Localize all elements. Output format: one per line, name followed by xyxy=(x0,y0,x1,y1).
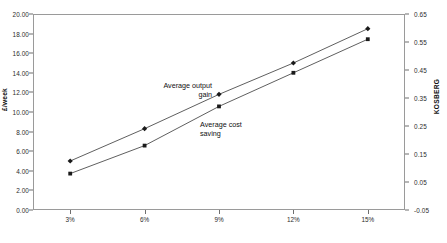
y-axis-right-tick-label: 0.65 xyxy=(414,11,427,18)
y-axis-right-tick-label: -0.05 xyxy=(414,207,429,214)
y-axis-left-tick-label: 12.00 xyxy=(13,89,30,96)
x-axis-tick-mark xyxy=(219,210,220,214)
y-axis-right-tick-label: 0.05 xyxy=(414,179,427,186)
y-axis-right-tick-mark xyxy=(405,126,409,127)
y-axis-left-tick-label: 8.00 xyxy=(16,128,29,135)
annotation-average-output-gain: Average output gain xyxy=(138,81,212,99)
y-axis-right-title: KOSBERG xyxy=(433,71,440,123)
y-axis-right-tick-mark xyxy=(405,154,409,155)
y-axis-right-tick-mark xyxy=(405,14,409,15)
x-axis-tick-mark xyxy=(368,210,369,214)
y-axis-right-tick-mark xyxy=(405,98,409,99)
x-axis-tick-label: 9% xyxy=(214,216,223,223)
y-axis-left-title: £/week xyxy=(1,80,8,120)
y-axis-left-tick-label: 18.00 xyxy=(13,30,30,37)
chart-container: 20.0018.0016.0014.0012.0010.008.006.004.… xyxy=(0,0,447,243)
y-axis-right-tick-label: 0.55 xyxy=(414,39,427,46)
x-axis: 3%6%9%12%15% xyxy=(33,210,405,224)
annotation-average-cost-saving: Average cost saving xyxy=(200,120,280,138)
chart-caption xyxy=(33,233,413,243)
x-axis-tick-mark xyxy=(70,210,71,214)
y-axis-left-tick-label: 14.00 xyxy=(13,69,30,76)
y-axis-right-tick-label: 0.25 xyxy=(414,123,427,130)
plot-area xyxy=(33,14,405,210)
y-axis-right-tick-label: 0.35 xyxy=(414,95,427,102)
x-axis-tick-label: 6% xyxy=(140,216,149,223)
y-axis-right-tick-mark xyxy=(405,182,409,183)
x-axis-tick-label: 3% xyxy=(66,216,75,223)
y-axis-left-tick-label: 0.00 xyxy=(16,207,29,214)
y-axis-left-tick-label: 2.00 xyxy=(16,187,29,194)
y-axis-right-tick-mark xyxy=(405,70,409,71)
y-axis-right-tick-label: 0.15 xyxy=(414,151,427,158)
y-axis-left-tick-label: 20.00 xyxy=(13,11,30,18)
x-axis-tick-mark xyxy=(293,210,294,214)
x-axis-tick-mark xyxy=(145,210,146,214)
y-axis-left-tick-label: 4.00 xyxy=(16,167,29,174)
y-axis-right-tick-mark xyxy=(405,210,409,211)
y-axis-right-tick-mark xyxy=(405,42,409,43)
y-axis-left-tick-label: 16.00 xyxy=(13,50,30,57)
x-axis-tick-label: 15% xyxy=(361,216,374,223)
y-axis-right: 0.650.550.450.350.250.150.05-0.05 xyxy=(405,0,447,210)
y-axis-right-tick-label: 0.45 xyxy=(414,67,427,74)
y-axis-left-tick-label: 10.00 xyxy=(13,109,30,116)
x-axis-tick-label: 12% xyxy=(287,216,300,223)
y-axis-left-tick-label: 6.00 xyxy=(16,148,29,155)
